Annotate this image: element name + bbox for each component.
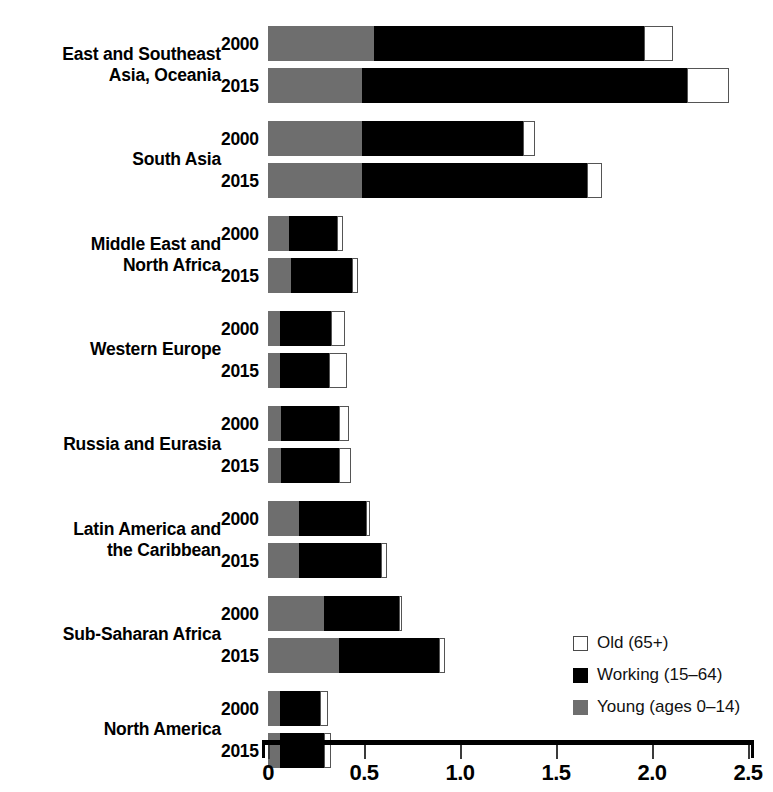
bar-segment-young[interactable] — [268, 691, 280, 726]
bar-segment-old[interactable] — [587, 163, 602, 198]
chart-row: 2000 — [0, 311, 773, 346]
x-axis-tick — [268, 745, 270, 759]
year-label: 2015 — [221, 76, 265, 96]
chart-row: 2015 — [0, 68, 773, 103]
bar-segment-old[interactable] — [339, 448, 351, 483]
bar-segment-young[interactable] — [268, 26, 374, 61]
stacked-bar[interactable] — [268, 638, 445, 673]
bar-segment-working[interactable] — [281, 406, 339, 441]
bar-segment-young[interactable] — [268, 448, 281, 483]
chart-row: 2015 — [0, 258, 773, 293]
legend-label: Young (ages 0–14) — [597, 697, 740, 717]
legend-item[interactable]: Old (65+) — [573, 627, 740, 659]
bar-segment-old[interactable] — [644, 26, 673, 61]
bar-segment-working[interactable] — [280, 311, 332, 346]
legend-label: Old (65+) — [597, 633, 668, 653]
chart-row: 2000 — [0, 216, 773, 251]
x-axis-left-cap — [262, 740, 265, 758]
x-axis-tick — [556, 745, 558, 759]
bar-segment-working[interactable] — [362, 121, 523, 156]
bar-segment-old[interactable] — [337, 216, 343, 251]
bar-segment-young[interactable] — [268, 311, 280, 346]
bar-segment-working[interactable] — [299, 543, 382, 578]
bar-segment-old[interactable] — [339, 406, 349, 441]
stacked-bar[interactable] — [268, 501, 370, 536]
bar-segment-old[interactable] — [399, 596, 403, 631]
stacked-bar[interactable] — [268, 258, 358, 293]
stacked-bar-chart: East and SoutheastAsia, Oceania20002015S… — [0, 0, 773, 792]
year-label: 2015 — [221, 646, 265, 666]
stacked-bar[interactable] — [268, 216, 343, 251]
bar-segment-working[interactable] — [339, 638, 439, 673]
chart-row: 2015 — [0, 353, 773, 388]
stacked-bar[interactable] — [268, 596, 402, 631]
x-axis-tick — [652, 745, 654, 759]
bar-segment-old[interactable] — [381, 543, 387, 578]
bar-segment-working[interactable] — [289, 216, 337, 251]
x-axis-tick-label: 2.0 — [612, 760, 692, 786]
stacked-bar[interactable] — [268, 26, 673, 61]
bar-segment-working[interactable] — [280, 353, 330, 388]
bar-segment-young[interactable] — [268, 638, 339, 673]
bar-segment-working[interactable] — [374, 26, 645, 61]
stacked-bar[interactable] — [268, 68, 729, 103]
x-axis-tick — [748, 745, 750, 759]
bar-segment-young[interactable] — [268, 163, 362, 198]
stacked-bar[interactable] — [268, 121, 535, 156]
chart-row: 2000 — [0, 406, 773, 441]
year-label: 2015 — [221, 741, 265, 761]
year-label: 2000 — [221, 699, 265, 719]
bar-segment-young[interactable] — [268, 68, 362, 103]
x-axis-tick-label: 1.0 — [420, 760, 500, 786]
legend-swatch-young-icon — [573, 700, 588, 715]
bar-segment-young[interactable] — [268, 596, 324, 631]
bar-segment-young[interactable] — [268, 258, 291, 293]
x-axis-tick-label: 1.5 — [516, 760, 596, 786]
legend-item[interactable]: Young (ages 0–14) — [573, 691, 740, 723]
bar-segment-old[interactable] — [329, 353, 346, 388]
bar-segment-old[interactable] — [439, 638, 445, 673]
legend-swatch-working-icon — [573, 668, 588, 683]
x-axis-tick-label: 0.5 — [324, 760, 404, 786]
region-group: Middle East andNorth Africa20002015 — [0, 216, 773, 293]
bar-segment-working[interactable] — [362, 68, 686, 103]
bar-segment-young[interactable] — [268, 121, 362, 156]
stacked-bar[interactable] — [268, 448, 351, 483]
bar-segment-young[interactable] — [268, 216, 289, 251]
x-axis-line — [262, 740, 754, 745]
stacked-bar[interactable] — [268, 353, 347, 388]
bar-segment-working[interactable] — [362, 163, 587, 198]
chart-row: 2015 — [0, 448, 773, 483]
bar-segment-young[interactable] — [268, 501, 299, 536]
chart-row: 2000 — [0, 596, 773, 631]
x-axis-tick — [364, 745, 366, 759]
bar-segment-working[interactable] — [281, 448, 339, 483]
region-group: Latin America andthe Caribbean20002015 — [0, 501, 773, 578]
stacked-bar[interactable] — [268, 311, 345, 346]
year-label: 2000 — [221, 604, 265, 624]
bar-segment-old[interactable] — [523, 121, 535, 156]
x-axis-tick — [460, 745, 462, 759]
chart-legend: Old (65+)Working (15–64)Young (ages 0–14… — [573, 627, 740, 723]
bar-segment-working[interactable] — [324, 596, 399, 631]
bar-segment-working[interactable] — [291, 258, 352, 293]
bar-segment-old[interactable] — [320, 691, 328, 726]
stacked-bar[interactable] — [268, 691, 328, 726]
bar-segment-young[interactable] — [268, 406, 281, 441]
year-label: 2015 — [221, 171, 265, 191]
stacked-bar[interactable] — [268, 543, 387, 578]
bar-segment-old[interactable] — [687, 68, 729, 103]
stacked-bar[interactable] — [268, 406, 349, 441]
stacked-bar[interactable] — [268, 163, 602, 198]
bar-segment-working[interactable] — [280, 691, 320, 726]
bar-segment-old[interactable] — [366, 501, 370, 536]
year-label: 2000 — [221, 224, 265, 244]
bar-segment-old[interactable] — [331, 311, 344, 346]
bar-segment-working[interactable] — [299, 501, 366, 536]
legend-item[interactable]: Working (15–64) — [573, 659, 740, 691]
year-label: 2000 — [221, 34, 265, 54]
bar-segment-young[interactable] — [268, 543, 299, 578]
bar-segment-young[interactable] — [268, 353, 280, 388]
chart-row: 2000 — [0, 121, 773, 156]
bar-segment-old[interactable] — [352, 258, 358, 293]
